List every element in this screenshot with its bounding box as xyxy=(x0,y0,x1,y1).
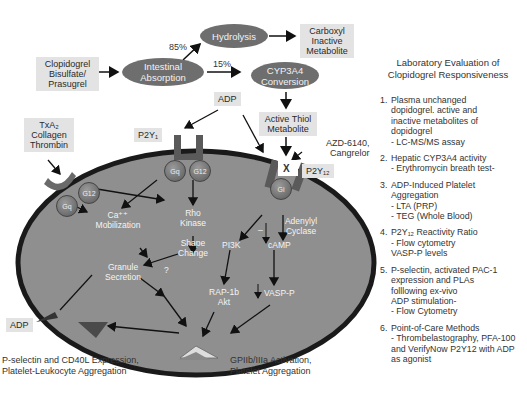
in-line: Change xyxy=(170,248,216,258)
hydrolysis-oval: Hydrolysis xyxy=(200,24,268,48)
in-line: Ca⁺⁺ xyxy=(88,210,148,220)
in-line: Kinase xyxy=(170,218,216,228)
carboxyl-box: Carboxyl Inactive Metabolite xyxy=(300,24,354,58)
item-line: - LC-MS/MS assay xyxy=(391,137,525,147)
question-mark: ? xyxy=(164,265,169,275)
antagonist-line: AZD-6140, xyxy=(326,138,370,148)
thiol-line: Metabolite xyxy=(263,124,313,134)
item-line: - Erythromycin breath test- xyxy=(391,163,525,173)
item-line: - Flow cytometry xyxy=(391,238,525,248)
list-item: 1. Plasma unchanged dopidogrel. active a… xyxy=(380,95,525,147)
item-line: - Flow Cytometry xyxy=(391,306,525,316)
drug-line: Prasugrel xyxy=(40,79,95,89)
list-item: 3. ADP-Induced Platelet Aggregation - LT… xyxy=(380,180,525,222)
granule-secretion: Granule Secretion xyxy=(98,262,148,282)
list-item: 4. P2Y₁₂ Reactivity Ratio - Flow cytomet… xyxy=(380,227,525,258)
p2y12-box: P2Y₁₂ xyxy=(302,164,334,178)
shape-change: Shape Change xyxy=(170,238,216,258)
item-line: - LTA (PRP) xyxy=(391,201,525,211)
item-line: as agonist xyxy=(391,354,525,364)
item-line: inactive metabolites of xyxy=(391,116,525,126)
pi3k-label: PI3K xyxy=(222,240,240,250)
pselectin-label: P-selectin and CD40L Expression, Platele… xyxy=(2,355,139,377)
item-line: Hepatic CYP3A4 activity xyxy=(391,153,525,163)
pct-85-label: 85% xyxy=(169,42,187,52)
item-line: folllowing ex-vivo xyxy=(391,286,525,296)
rap1b-akt: RAP-1b Akt xyxy=(204,287,244,307)
clopidogrel-box: Clopidogrel Bisulfate/ Prasugrel xyxy=(36,57,99,91)
in-line: RAP-1b xyxy=(204,287,244,297)
rho-kinase: Rho Kinase xyxy=(170,208,216,228)
in-line: Adenylyl xyxy=(278,216,324,226)
out-line: Platelet-Leukocyte Aggregation xyxy=(2,366,139,377)
oval-line: Absorption xyxy=(140,72,185,83)
item-number: 6. xyxy=(380,323,387,333)
item-line: ADP-Induced Platelet xyxy=(391,180,525,190)
antagonists-label: AZD-6140, Cangrelor xyxy=(326,138,370,158)
in-line: Granule xyxy=(98,262,148,272)
out-line: Platelet Aggregation xyxy=(230,366,312,377)
ca-mobilization: Ca⁺⁺ Mobilization xyxy=(88,210,148,230)
out-line: P-selectin and CD40L Expression, xyxy=(2,355,139,366)
item-line: and VerifyNow P2Y12 with ADP xyxy=(391,344,525,354)
in-line: Secretion xyxy=(98,272,148,282)
carboxyl-line: Inactive xyxy=(304,36,350,46)
item-line: - Thrombelastography, PFA-100 xyxy=(391,333,525,343)
block-mark: X xyxy=(283,164,290,174)
adenylyl-cyclase: Adenylyl Cyclase xyxy=(278,216,324,236)
in-line: Akt xyxy=(204,297,244,307)
g12-protein: G12 xyxy=(189,160,211,182)
in-line: Rho xyxy=(170,208,216,218)
oval-line: Conversion xyxy=(261,76,309,87)
camp-label: cAMP xyxy=(268,240,291,250)
adp-bottom-box: ADP xyxy=(6,318,33,332)
pct-15-label: 15% xyxy=(213,59,231,69)
adp-top-box: ADP xyxy=(214,92,241,106)
gq-left-protein: Gq xyxy=(56,195,78,217)
gq-protein: Gq xyxy=(164,160,186,182)
oval-line: Intestinal xyxy=(140,61,185,72)
carboxyl-line: Metabolite xyxy=(304,46,350,56)
item-number: 5. xyxy=(380,265,387,275)
drug-line: Bisulfate/ xyxy=(40,69,95,79)
thiol-line: Active Thiol xyxy=(263,114,313,124)
item-line: Point-of-Care Methods xyxy=(391,323,525,333)
title-line: Laboratory Evaluation of xyxy=(378,57,518,69)
platelet-cell xyxy=(18,151,374,375)
carboxyl-line: Carboxyl xyxy=(304,26,350,36)
cyp3a4-oval: CYP3A4Conversion xyxy=(251,62,319,89)
item-line: expression and PLAs xyxy=(391,275,525,285)
item-line: dopidogrel xyxy=(391,126,525,136)
drug-line: Clopidogrel xyxy=(40,59,95,69)
gi-protein: Gi xyxy=(270,178,292,200)
item-line: Plasma unchanged xyxy=(391,95,525,105)
oval-line: CYP3A4 xyxy=(261,65,309,76)
g12-left-protein: G12 xyxy=(78,182,100,204)
lab-panel-title: Laboratory Evaluation of Clopidogrel Res… xyxy=(378,57,518,81)
intestinal-absorption-oval: IntestinalAbsorption xyxy=(122,58,204,86)
p2y1-box: P2Y₁ xyxy=(134,128,162,142)
hydrolysis-label: Hydrolysis xyxy=(212,31,256,42)
item-number: 4. xyxy=(380,227,387,237)
in-line: Cyclase xyxy=(278,226,324,236)
out-line: GPIIb/IIIa Activation, xyxy=(230,355,312,366)
item-line: dopidogrel. active and xyxy=(391,105,525,115)
lab-methods-list: 1. Plasma unchanged dopidogrel. active a… xyxy=(380,95,525,370)
item-line: ADP stimulation- xyxy=(391,296,525,306)
active-thiol-box: Active Thiol Metabolite xyxy=(259,112,317,136)
item-number: 2. xyxy=(380,153,387,163)
antagonist-line: Cangrelor xyxy=(326,148,370,158)
txa2-line: TxA₂ xyxy=(28,120,70,130)
list-item: 2. Hepatic CYP3A4 activity - Erythromyci… xyxy=(380,153,525,174)
in-line: Shape xyxy=(170,238,216,248)
title-line: Clopidogrel Responsiveness xyxy=(378,69,518,81)
vasp-p-label: VASP-P xyxy=(264,288,295,298)
item-number: 3. xyxy=(380,180,387,190)
gpiib-label: GPIIb/IIIa Activation, Platelet Aggregat… xyxy=(230,355,312,377)
item-number: 1. xyxy=(380,95,387,105)
txa2-line: Thrombin xyxy=(28,140,70,150)
list-item: 5. P-selectin, activated PAC-1 expressio… xyxy=(380,265,525,317)
txa2-box: TxA₂ Collagen Thrombin xyxy=(24,118,74,152)
txa2-line: Collagen xyxy=(28,130,70,140)
list-item: 6. Point-of-Care Methods - Thrombelastog… xyxy=(380,323,525,365)
